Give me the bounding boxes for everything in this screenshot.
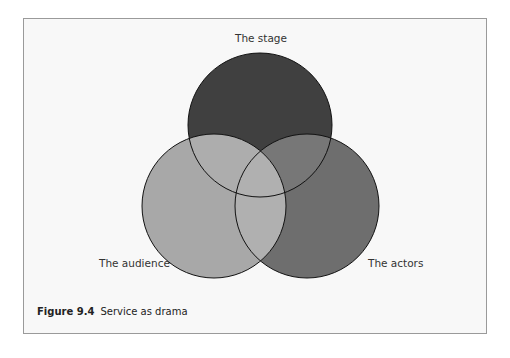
- figure-number: Figure 9.4: [37, 306, 94, 317]
- figure-title: Service as drama: [100, 306, 187, 317]
- venn-diagram: The stage The audience The actors: [0, 0, 510, 358]
- audience-label: The audience: [98, 257, 170, 269]
- stage-label: The stage: [234, 32, 287, 44]
- actors-label: The actors: [367, 257, 423, 269]
- figure-caption: Figure 9.4Service as drama: [37, 306, 188, 317]
